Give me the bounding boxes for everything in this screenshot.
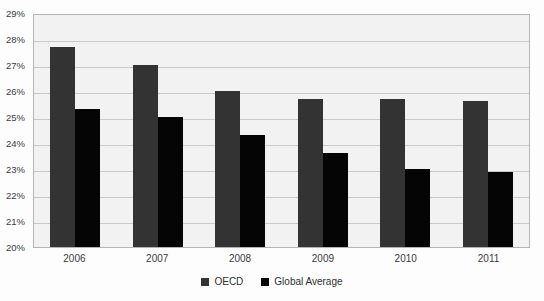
- x-axis-tick-label: 2011: [447, 253, 530, 264]
- y-axis-tick-label: 20%: [0, 243, 25, 253]
- legend-label: Global Average: [274, 276, 342, 287]
- bar-global-average-2008: [240, 135, 265, 247]
- legend-swatch-icon: [201, 278, 209, 286]
- bar-oecd-2008: [215, 91, 240, 247]
- y-axis-tick-label: 29%: [0, 9, 25, 19]
- bar-group: [117, 15, 200, 247]
- bar-global-average-2011: [488, 172, 513, 247]
- bar-global-average-2006: [75, 109, 100, 247]
- x-axis-tick-label: 2006: [33, 253, 116, 264]
- y-axis-tick-label: 24%: [0, 139, 25, 149]
- y-axis-tick-label: 28%: [0, 35, 25, 45]
- bars-layer: [34, 15, 529, 247]
- legend-entry[interactable]: Global Average: [261, 276, 342, 287]
- x-axis-labels: 200620072008200920102011: [33, 253, 530, 264]
- bar-group: [34, 15, 117, 247]
- bar-group: [447, 15, 530, 247]
- y-axis-tick-label: 27%: [0, 61, 25, 71]
- bar-global-average-2010: [405, 169, 430, 247]
- bar-group: [364, 15, 447, 247]
- y-axis-tick-label: 26%: [0, 87, 25, 97]
- x-axis-tick-label: 2008: [199, 253, 282, 264]
- chart-legend: OECDGlobal Average: [0, 276, 544, 287]
- bar-oecd-2009: [298, 99, 323, 247]
- x-axis-tick-label: 2010: [364, 253, 447, 264]
- y-axis-tick-label: 23%: [0, 165, 25, 175]
- x-axis-tick-label: 2009: [281, 253, 364, 264]
- x-axis-tick-label: 2007: [116, 253, 199, 264]
- y-axis-tick-label: 21%: [0, 217, 25, 227]
- bar-oecd-2011: [463, 101, 488, 247]
- y-axis-tick-label: 25%: [0, 113, 25, 123]
- legend-label: OECD: [214, 276, 243, 287]
- bar-oecd-2010: [380, 99, 405, 247]
- bar-global-average-2009: [323, 153, 348, 247]
- bar-global-average-2007: [158, 117, 183, 247]
- bar-group: [199, 15, 282, 247]
- plot-area: [33, 14, 530, 248]
- bar-chart: 29%28%27%26%25%24%23%22%21%20% 200620072…: [0, 0, 544, 301]
- bar-oecd-2006: [50, 47, 75, 247]
- y-axis-tick-label: 22%: [0, 191, 25, 201]
- legend-swatch-icon: [261, 278, 269, 286]
- bar-group: [282, 15, 365, 247]
- bar-oecd-2007: [133, 65, 158, 247]
- legend-entry[interactable]: OECD: [201, 276, 243, 287]
